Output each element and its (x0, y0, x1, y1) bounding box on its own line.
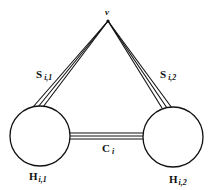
right-node-circle (143, 107, 203, 167)
left-bundle-label: Si,1 (36, 68, 52, 82)
right-bundle-label: Si,2 (160, 68, 176, 82)
left-node-circle (10, 106, 70, 166)
connector-label: Ci (102, 142, 115, 156)
left-edge-bundle (33, 21, 108, 107)
right-node-label: Hi,2 (169, 173, 187, 187)
apex-label: v (105, 7, 110, 17)
left-node-label: Hi,1 (29, 170, 47, 184)
right-edge-bundle (108, 21, 172, 108)
diagram-canvas: v Si,1 Si,2 Ci Hi,1 Hi,2 (0, 0, 213, 190)
connector-bundle (70, 133, 143, 139)
